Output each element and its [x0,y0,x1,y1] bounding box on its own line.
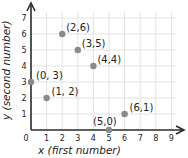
y-axis-title: y (second number) [0,20,12,121]
point-label: (3,5) [82,38,106,49]
data-point [90,63,96,69]
point-label: (5,0) [93,116,117,127]
y-tick-label: 5 [21,46,26,55]
data-point [28,79,34,85]
x-tick-label: 3 [75,134,80,143]
x-tick-label: 7 [138,134,143,143]
y-tick-label: 2 [21,94,26,103]
y-tick-label: 3 [21,78,26,87]
data-point [121,111,127,117]
x-tick-label: 1 [44,134,49,143]
data-point [106,127,112,133]
x-tick-label: 6 [122,134,127,143]
y-tick-label: 7 [21,14,26,23]
data-point [59,31,65,37]
x-axis-title: x (first number) [37,144,121,156]
data-point [75,47,81,53]
point-label: (4,4) [97,54,121,65]
data-point [43,95,49,101]
y-tick-label: 1 [21,110,26,119]
y-tick-labels: 1234567 [21,14,26,119]
x-tick-label: 8 [153,134,158,143]
y-tick-label: 4 [21,62,26,71]
x-tick-labels: 0123456789 [23,134,173,143]
x-tick-label: 4 [91,134,96,143]
scatter-chart: 0123456789 1234567 (0, 3)(1, 2)(2,6)(3,5… [0,0,188,158]
point-label: (6,1) [130,102,154,113]
x-tick-label: 9 [169,134,174,143]
point-label: (2,6) [66,22,90,33]
x-tick-label: 2 [60,134,65,143]
x-tick-label: 0 [23,134,28,143]
point-label: (1, 2) [52,86,79,97]
y-tick-label: 6 [21,30,26,39]
point-label: (0, 3) [36,70,63,81]
point-labels: (0, 3)(1, 2)(2,6)(3,5)(4,4)(5,0)(6,1) [36,22,153,127]
x-tick-label: 5 [106,134,111,143]
